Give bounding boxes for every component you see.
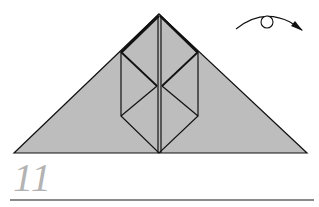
turn-over-arrow-icon: [236, 16, 303, 31]
divider-rule: [10, 199, 314, 201]
step-number: 11: [13, 158, 52, 198]
